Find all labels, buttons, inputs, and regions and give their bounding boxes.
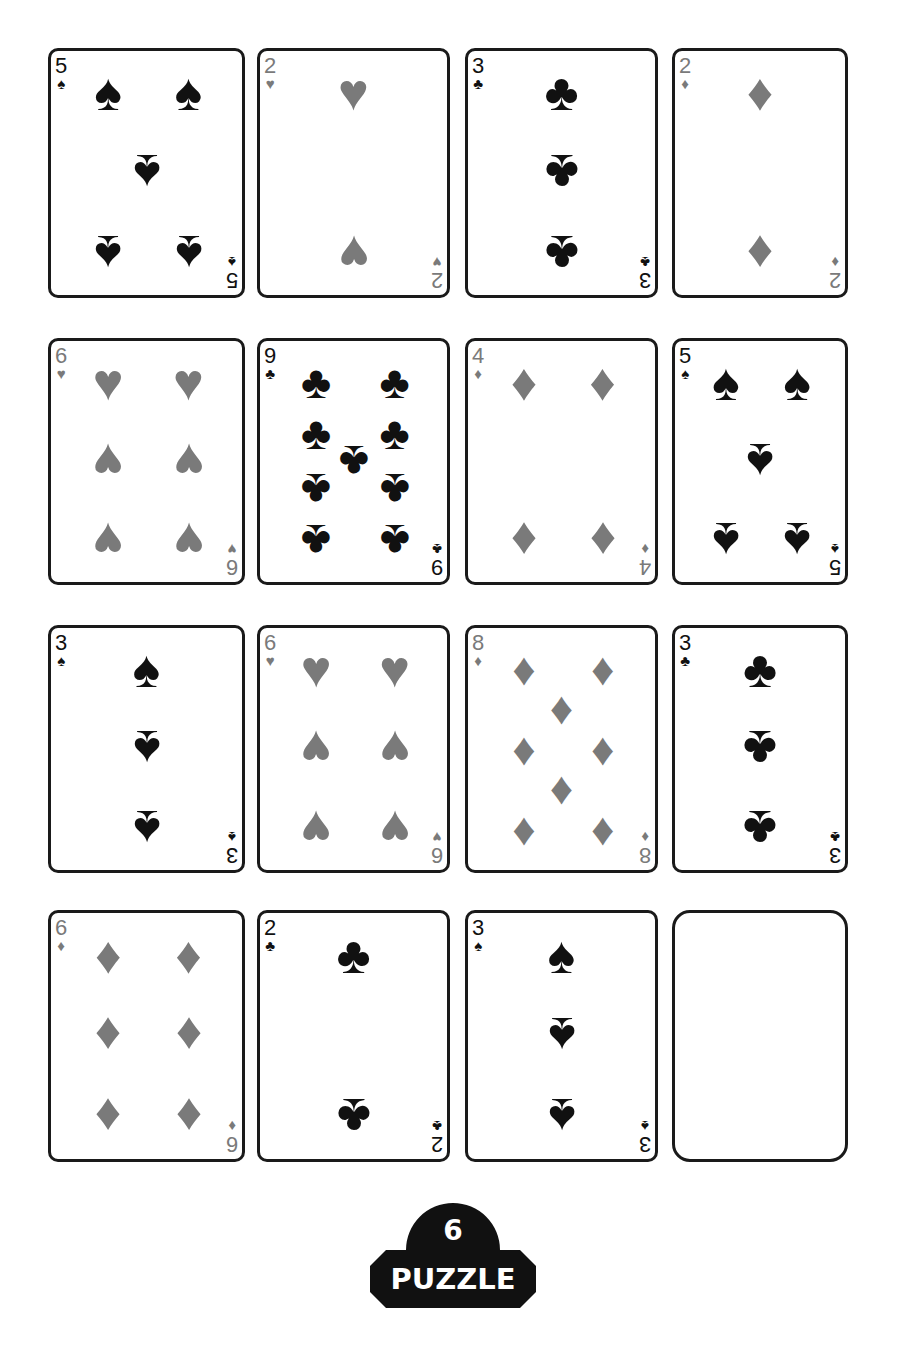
diamond-pip-icon: ♦: [511, 356, 538, 408]
diamond-icon: ♦: [831, 255, 839, 270]
spade-pip-icon: ♠: [94, 228, 122, 280]
club-pip-icon: ♣: [338, 439, 368, 485]
spade-pip-icon: ♠: [133, 643, 161, 695]
corner-index-bottom: 6♥: [226, 542, 238, 578]
card-rank: 3: [639, 269, 651, 291]
diamond-pip-icon: ♦: [550, 765, 573, 811]
spade-pip-icon: ♠: [133, 147, 161, 199]
corner-index-bottom: 5♠: [226, 255, 238, 291]
heart-pip-icon: ♥: [173, 436, 204, 488]
club-pip-icon: ♣: [301, 467, 331, 513]
card-rank: 6: [55, 345, 67, 367]
club-pip-icon: ♣: [743, 643, 777, 695]
heart-pip-icon: ♥: [173, 515, 204, 567]
club-pip-icon: ♣: [301, 359, 331, 405]
card-3-of-spades[interactable]: 3♠3♠♠♠♠: [48, 625, 245, 873]
spade-icon: ♠: [228, 830, 236, 845]
card-2-of-hearts[interactable]: 2♥2♥♥♥: [257, 48, 450, 298]
club-pip-icon: ♣: [544, 147, 578, 199]
club-pip-icon: ♣: [743, 723, 777, 775]
corner-index-bottom: 3♠: [639, 1119, 651, 1155]
spade-pip-icon: ♠: [175, 66, 203, 118]
card-3-of-clubs[interactable]: 3♣3♣♣♣♣: [465, 48, 658, 298]
puzzle-label: PUZZLE: [370, 1262, 536, 1296]
diamond-pip-icon: ♦: [591, 726, 614, 772]
card-9-of-clubs[interactable]: 9♣9♣♣♣♣♣♣♣♣♣♣: [257, 338, 450, 585]
spade-pip-icon: ♠: [94, 66, 122, 118]
card-rank: 6: [226, 556, 238, 578]
card-rank: 3: [226, 844, 238, 866]
card-6-of-hearts[interactable]: 6♥6♥♥♥♥♥♥♥: [257, 625, 450, 873]
spade-pip-icon: ♠: [712, 356, 740, 408]
card-4-of-diamonds[interactable]: 4♦4♦♦♦♦♦: [465, 338, 658, 585]
puzzle-number: 6: [370, 1214, 536, 1247]
heart-icon: ♥: [227, 542, 236, 557]
card-rank: 4: [639, 556, 651, 578]
club-pip-icon: ♣: [544, 228, 578, 280]
diamond-pip-icon: ♦: [512, 806, 535, 852]
diamond-pip-icon: ♦: [591, 646, 614, 692]
heart-pip-icon: ♥: [338, 228, 369, 280]
corner-index-top: 9♣: [264, 345, 276, 381]
card-2-of-clubs[interactable]: 2♣2♣♣♣: [257, 910, 450, 1162]
club-pip-icon: ♣: [336, 929, 370, 981]
club-pip-icon: ♣: [380, 467, 410, 513]
corner-index-bottom: 8♦: [639, 830, 651, 866]
empty-card-slot[interactable]: [672, 910, 848, 1162]
diamond-icon: ♦: [641, 830, 649, 845]
diamond-icon: ♦: [474, 366, 482, 381]
card-5-of-spades[interactable]: 5♠5♠♠♠♠♠♠: [672, 338, 848, 585]
card-5-of-spades[interactable]: 5♠5♠♠♠♠♠♠: [48, 48, 245, 298]
card-6-of-hearts[interactable]: 6♥6♥♥♥♥♥♥♥: [48, 338, 245, 585]
diamond-pip-icon: ♦: [95, 1010, 122, 1062]
heart-pip-icon: ♥: [93, 436, 124, 488]
diamond-pip-icon: ♦: [175, 929, 202, 981]
diamond-pip-icon: ♦: [589, 515, 616, 567]
card-3-of-clubs[interactable]: 3♣3♣♣♣♣: [672, 625, 848, 873]
club-icon: ♣: [680, 653, 690, 668]
corner-index-top: 5♠: [55, 55, 67, 91]
corner-index-bottom: 3♣: [829, 830, 841, 866]
diamond-pip-icon: ♦: [511, 515, 538, 567]
spade-pip-icon: ♠: [175, 228, 203, 280]
card-rank: 8: [639, 844, 651, 866]
diamond-pip-icon: ♦: [747, 66, 774, 118]
diamond-pip-icon: ♦: [589, 356, 616, 408]
spade-pip-icon: ♠: [784, 515, 812, 567]
spade-icon: ♠: [831, 542, 839, 557]
diamond-icon: ♦: [641, 542, 649, 557]
card-2-of-diamonds[interactable]: 2♦2♦♦♦: [672, 48, 848, 298]
puzzle-badge: 6 PUZZLE: [370, 1200, 536, 1308]
heart-icon: ♥: [432, 830, 441, 845]
card-rank: 2: [431, 1133, 443, 1155]
diamond-pip-icon: ♦: [747, 228, 774, 280]
club-pip-icon: ♣: [380, 410, 410, 456]
corner-index-bottom: 6♦: [226, 1119, 238, 1155]
club-pip-icon: ♣: [743, 803, 777, 855]
club-icon: ♣: [830, 830, 840, 845]
corner-index-bottom: 6♥: [431, 830, 443, 866]
card-rank: 2: [264, 917, 276, 939]
card-8-of-diamonds[interactable]: 8♦8♦♦♦♦♦♦♦♦♦: [465, 625, 658, 873]
spade-icon: ♠: [57, 76, 65, 91]
spade-pip-icon: ♠: [784, 356, 812, 408]
diamond-pip-icon: ♦: [512, 726, 535, 772]
card-6-of-diamonds[interactable]: 6♦6♦♦♦♦♦♦♦: [48, 910, 245, 1162]
heart-icon: ♥: [432, 255, 441, 270]
card-rank: 6: [226, 1133, 238, 1155]
spade-pip-icon: ♠: [133, 723, 161, 775]
corner-index-top: 8♦: [472, 632, 484, 668]
corner-index-top: 6♥: [55, 345, 67, 381]
spade-pip-icon: ♠: [548, 929, 576, 981]
card-3-of-spades[interactable]: 3♠3♠♠♠♠: [465, 910, 658, 1162]
corner-index-top: 6♥: [264, 632, 276, 668]
corner-index-top: 4♦: [472, 345, 484, 381]
diamond-pip-icon: ♦: [512, 646, 535, 692]
card-rank: 6: [55, 917, 67, 939]
diamond-icon: ♦: [681, 76, 689, 91]
card-rank: 5: [829, 556, 841, 578]
heart-pip-icon: ♥: [301, 643, 332, 695]
corner-index-bottom: 2♣: [431, 1119, 443, 1155]
corner-index-top: 2♣: [264, 917, 276, 953]
card-rank: 2: [679, 55, 691, 77]
